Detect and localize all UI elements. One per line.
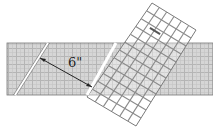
diagram-canvas — [0, 0, 213, 134]
fabric-cutting-diagram: 6" — [0, 0, 213, 134]
measurement-label: 6" — [68, 56, 82, 69]
